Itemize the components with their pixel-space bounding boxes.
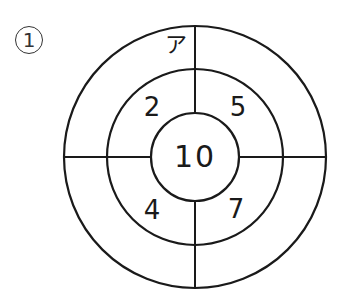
label-a-unknown: ア — [165, 34, 187, 56]
label-middle-bottom-left: 4 — [144, 197, 161, 223]
label-center: 10 — [174, 142, 216, 172]
label-middle-top-left: 2 — [144, 94, 161, 120]
label-middle-bottom-right: 7 — [228, 196, 245, 222]
label-middle-top-right: 5 — [230, 94, 247, 120]
